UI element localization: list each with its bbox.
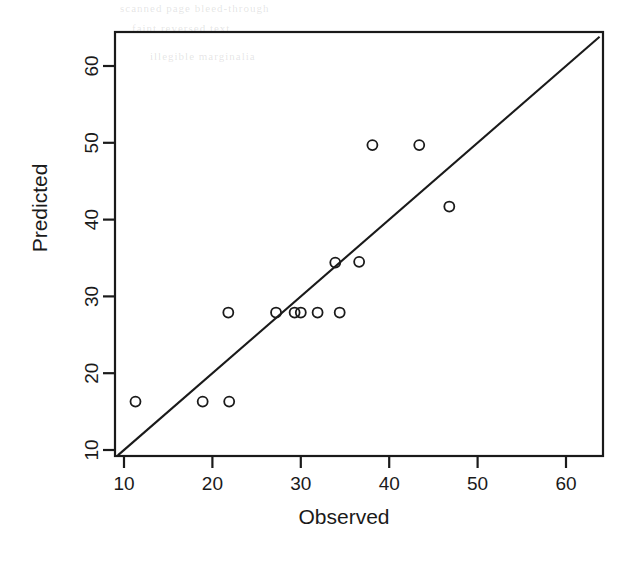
- x-tick-label: 50: [467, 473, 488, 494]
- data-point-marker: [354, 257, 364, 267]
- y-tick-label: 30: [81, 286, 102, 307]
- data-points: [130, 140, 454, 407]
- x-tick-label: 60: [555, 473, 576, 494]
- y-tick-label: 10: [81, 439, 102, 460]
- plot-canvas: 102030405060 102030405060: [0, 0, 638, 571]
- data-point-marker: [198, 397, 208, 407]
- identity-line: [118, 37, 600, 456]
- scatter-plot-figure: scanned page bleed-through faint reverse…: [0, 0, 638, 571]
- y-axis-label: Predicted: [28, 128, 52, 288]
- data-point-marker: [444, 202, 454, 212]
- data-point-marker: [335, 308, 345, 318]
- data-point-marker: [296, 308, 306, 318]
- data-point-marker: [367, 140, 377, 150]
- data-point-marker: [271, 308, 281, 318]
- y-tick-label: 60: [81, 55, 102, 76]
- y-tick-label: 20: [81, 363, 102, 384]
- x-tick-label: 20: [202, 473, 223, 494]
- data-point-marker: [414, 140, 424, 150]
- data-point-marker: [313, 308, 323, 318]
- x-tick-label: 10: [113, 473, 134, 494]
- x-axis-ticks: 102030405060: [113, 456, 576, 494]
- y-tick-label: 50: [81, 132, 102, 153]
- x-tick-label: 30: [290, 473, 311, 494]
- data-point-marker: [224, 397, 234, 407]
- y-tick-label: 40: [81, 209, 102, 230]
- y-axis-ticks: 102030405060: [81, 55, 115, 460]
- x-axis-label: Observed: [0, 505, 638, 529]
- plot-frame: [115, 32, 603, 456]
- data-point-marker: [130, 397, 140, 407]
- data-point-marker: [223, 308, 233, 318]
- x-tick-label: 40: [379, 473, 400, 494]
- plot-box: [115, 32, 603, 456]
- one-to-one-line: [118, 37, 600, 456]
